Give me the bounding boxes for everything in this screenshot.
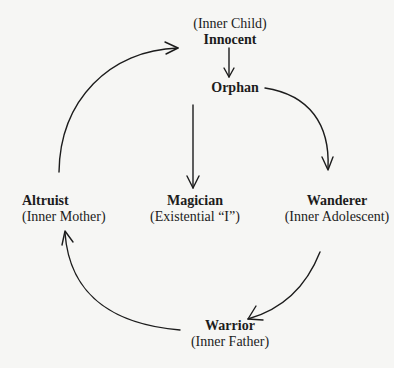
innocent-subtitle: (Inner Child) [170,16,290,32]
altruist-label: Altruist [22,193,106,209]
node-wanderer: Wanderer (Inner Adolescent) [280,193,394,225]
arrow-orphan-to-magician [187,105,199,188]
altruist-subtitle: (Inner Mother) [22,209,106,225]
arrows-layer [0,0,394,368]
node-altruist: Altruist (Inner Mother) [22,193,106,225]
warrior-subtitle: (Inner Father) [185,334,275,350]
wanderer-subtitle: (Inner Adolescent) [280,209,394,225]
arrow-warrior-to-altruist [62,231,180,330]
wanderer-label: Wanderer [280,193,394,209]
warrior-label: Warrior [185,318,275,334]
node-magician: Magician (Existential “I”) [130,193,260,225]
arrow-innocent-to-orphan [224,48,234,77]
orphan-label: Orphan [200,80,270,96]
node-warrior: Warrior (Inner Father) [185,318,275,350]
arrow-altruist-to-innocent [59,42,178,172]
node-innocent: (Inner Child) Innocent [170,16,290,48]
innocent-label: Innocent [170,32,290,48]
magician-label: Magician [130,193,260,209]
magician-subtitle: (Existential “I”) [130,209,260,225]
node-orphan: Orphan [200,80,270,96]
arrow-orphan-to-wanderer [265,88,333,170]
arrow-wanderer-to-warrior [248,252,320,320]
archetype-cycle-diagram: (Inner Child) Innocent Orphan Magician (… [0,0,394,368]
